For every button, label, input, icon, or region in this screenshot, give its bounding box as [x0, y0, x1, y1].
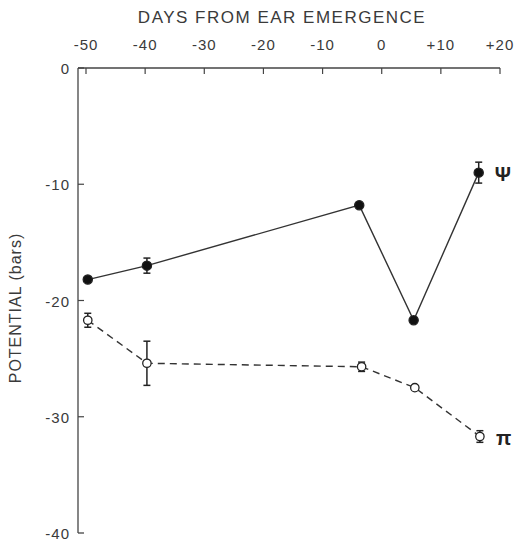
data-point	[142, 261, 151, 270]
series-line-psi	[88, 173, 479, 321]
y-tick-label: -20	[10, 292, 70, 309]
series-label-psi: Ψ	[495, 162, 511, 185]
data-point	[143, 359, 151, 367]
x-tick-label: +10	[427, 36, 455, 53]
chart-canvas	[0, 0, 524, 542]
chart-title: DAYS FROM EAR EMERGENCE	[0, 8, 524, 28]
x-tick-label: -50	[74, 36, 99, 53]
x-tick-label: -10	[310, 36, 335, 53]
x-tick-label: +20	[486, 36, 514, 53]
x-tick-label: -20	[251, 36, 276, 53]
y-tick-label: 0	[10, 60, 70, 77]
data-point	[474, 168, 483, 177]
data-point	[411, 383, 419, 391]
data-point	[84, 316, 92, 324]
x-tick-label: 0	[377, 36, 386, 53]
data-point	[355, 201, 364, 210]
data-point	[409, 316, 418, 325]
x-tick-label: -40	[133, 36, 158, 53]
data-point	[357, 363, 365, 371]
series-label-pi: π	[496, 426, 511, 449]
y-tick-label: -10	[10, 176, 70, 193]
data-point	[476, 432, 484, 440]
y-tick-label: -30	[10, 408, 70, 425]
data-point	[83, 275, 92, 284]
y-tick-label: -40	[10, 525, 70, 542]
x-tick-label: -30	[192, 36, 217, 53]
